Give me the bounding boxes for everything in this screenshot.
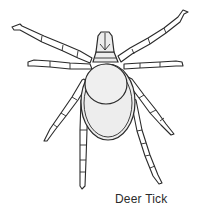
leg-second-left bbox=[28, 60, 92, 69]
tick-illustration-canvas: Deer Tick bbox=[0, 0, 197, 217]
tick-body bbox=[81, 64, 135, 140]
leg-back-right bbox=[131, 98, 162, 184]
leg-front-left bbox=[12, 24, 92, 63]
tick-head bbox=[93, 32, 118, 62]
caption-label: Deer Tick bbox=[115, 192, 167, 206]
leg-second-right bbox=[124, 61, 183, 69]
leg-front-right bbox=[118, 10, 188, 62]
deer-tick-icon bbox=[0, 0, 197, 217]
